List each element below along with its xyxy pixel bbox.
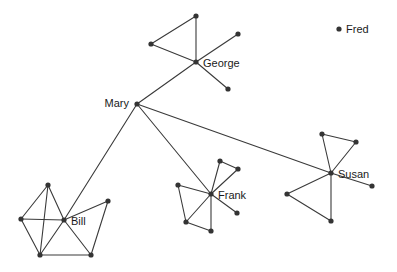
edge-bill-b2 <box>21 219 64 220</box>
node-b3[interactable] <box>37 252 42 257</box>
edge-f1-f2 <box>220 161 238 169</box>
node-b4[interactable] <box>88 252 93 257</box>
edge-bill-b1 <box>48 185 64 220</box>
node-s1[interactable] <box>319 131 324 136</box>
node-f6[interactable] <box>234 210 239 215</box>
edge-frank-f4 <box>186 194 211 222</box>
node-g1[interactable] <box>193 13 198 18</box>
node-label-mary: Mary <box>105 97 130 109</box>
node-f4[interactable] <box>183 219 188 224</box>
node-label-bill: Bill <box>71 215 86 227</box>
node-frank[interactable] <box>208 191 213 196</box>
node-susan[interactable] <box>328 170 333 175</box>
edge-f4-f5 <box>186 222 211 231</box>
node-s3[interactable] <box>369 183 374 188</box>
node-b5[interactable] <box>105 198 110 203</box>
node-g2[interactable] <box>148 41 153 46</box>
edge-g1-g2 <box>151 16 196 44</box>
edge-george-g2 <box>151 44 196 62</box>
node-f5[interactable] <box>208 228 213 233</box>
network-canvas: MaryGeorgeBillFrankSusanFred <box>0 0 397 272</box>
edge-susan-s4 <box>287 173 331 194</box>
node-label-frank: Frank <box>218 189 247 201</box>
node-labels-group: MaryGeorgeBillFrankSusanFred <box>71 23 369 227</box>
node-f3[interactable] <box>175 182 180 187</box>
node-s4[interactable] <box>284 191 289 196</box>
edge-f3-f4 <box>178 185 186 222</box>
edge-b4-b5 <box>91 201 108 255</box>
node-b2[interactable] <box>18 216 23 221</box>
edge-susan-s1 <box>322 134 331 173</box>
node-label-fred: Fred <box>346 23 369 35</box>
node-bill[interactable] <box>61 217 66 222</box>
edge-frank-f3 <box>178 185 211 194</box>
edge-mary-george <box>137 62 196 104</box>
node-g3[interactable] <box>235 31 240 36</box>
edge-mary-bill <box>64 104 137 220</box>
node-f2[interactable] <box>235 166 240 171</box>
network-diagram: MaryGeorgeBillFrankSusanFred <box>0 0 397 272</box>
node-label-susan: Susan <box>338 168 369 180</box>
node-label-george: George <box>203 57 240 69</box>
edge-s4-s5 <box>287 194 331 221</box>
node-george[interactable] <box>193 59 198 64</box>
edge-s1-s2 <box>322 134 356 142</box>
node-s5[interactable] <box>328 218 333 223</box>
node-s2[interactable] <box>353 139 358 144</box>
node-fred[interactable] <box>336 26 341 31</box>
node-g4[interactable] <box>225 86 230 91</box>
edge-b1-b2 <box>21 185 48 219</box>
node-f1[interactable] <box>217 158 222 163</box>
edge-mary-susan <box>137 104 331 173</box>
node-mary[interactable] <box>134 101 139 106</box>
edge-b2-b3 <box>21 219 40 255</box>
node-b1[interactable] <box>45 182 50 187</box>
